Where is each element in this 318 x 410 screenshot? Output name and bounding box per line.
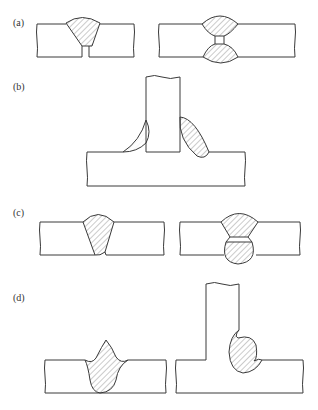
panel-c-right-double-v-root-defect [180,214,301,265]
panel-label-c: (c) [13,207,24,218]
panel-c-left-incomplete-penetration [40,215,165,256]
panel-a-right-double-weld [159,16,296,63]
panel-d-left-excess-reinforcement [45,340,167,393]
panel-label-d: (d) [13,292,25,303]
panel-label-b: (b) [13,81,25,92]
panel-b-t-joint [87,76,246,187]
panel-d-right-t-joint-overlap [176,283,304,394]
panel-a-left-single-v-weld [37,18,135,58]
weld-defects-figure [0,0,318,410]
panel-label-a: (a) [13,17,24,28]
